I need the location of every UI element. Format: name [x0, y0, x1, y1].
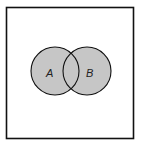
venn-diagram: A B — [0, 0, 141, 147]
set-a-label: A — [45, 67, 53, 79]
set-b-label: B — [86, 67, 93, 79]
